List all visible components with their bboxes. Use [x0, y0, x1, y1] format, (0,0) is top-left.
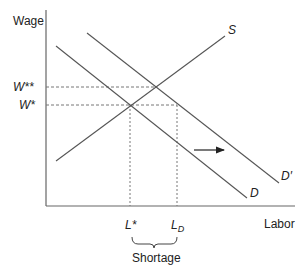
- l-star-label: L*: [125, 218, 137, 232]
- demand-shifted-label: D′: [281, 169, 293, 183]
- shortage-label: Shortage: [132, 251, 181, 265]
- shortage-brace: [132, 237, 177, 248]
- supply-label: S: [228, 23, 236, 37]
- supply-curve: [56, 36, 225, 161]
- demand-shifted-curve: [87, 33, 279, 183]
- l-d-label: LD: [171, 218, 185, 234]
- x-axis-label: Labor: [264, 217, 295, 231]
- w-star-label: W*: [19, 98, 35, 112]
- demand-label: D: [250, 186, 259, 200]
- labor-market-diagram: Wage Labor S D D′ W** W* L* LD Shortage: [0, 0, 308, 277]
- y-axis-label: Wage: [13, 14, 44, 28]
- w-double-star-label: W**: [13, 80, 34, 94]
- demand-curve: [56, 46, 247, 198]
